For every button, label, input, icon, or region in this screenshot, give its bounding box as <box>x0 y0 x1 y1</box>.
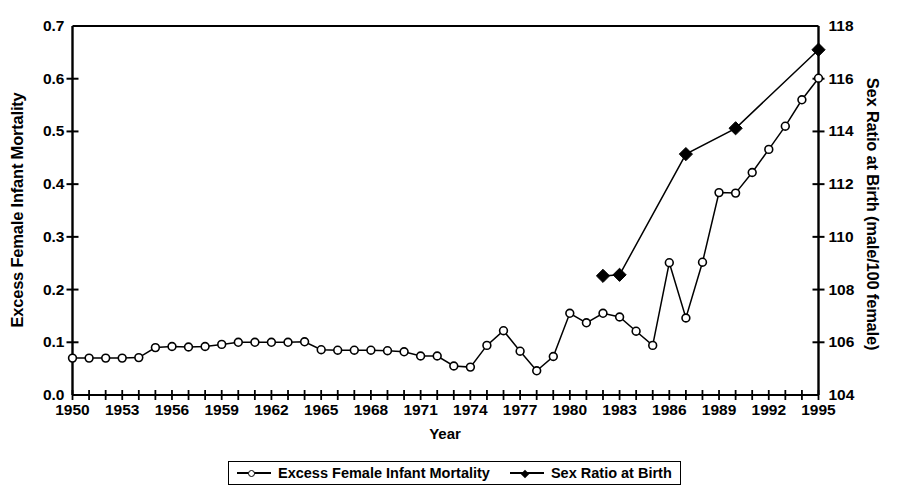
data-point-excess-female-infant-mortality <box>350 346 358 354</box>
data-point-excess-female-infant-mortality <box>334 346 342 354</box>
data-point-sex-ratio-at-birth <box>679 147 692 160</box>
data-point-excess-female-infant-mortality <box>218 341 226 349</box>
data-point-sex-ratio-at-birth <box>596 269 609 282</box>
data-point-excess-female-infant-mortality <box>765 146 773 154</box>
data-point-excess-female-infant-mortality <box>317 346 325 354</box>
data-point-excess-female-infant-mortality <box>467 363 475 371</box>
data-point-excess-female-infant-mortality <box>251 338 259 346</box>
data-point-excess-female-infant-mortality <box>168 343 176 351</box>
data-point-excess-female-infant-mortality <box>483 342 491 350</box>
data-point-excess-female-infant-mortality <box>400 348 408 356</box>
legend-item-sex-ratio-at-birth[interactable]: Sex Ratio at Birth <box>510 465 672 481</box>
data-point-excess-female-infant-mortality <box>798 96 806 104</box>
legend-item-excess-female-infant-mortality[interactable]: Excess Female Infant Mortality <box>237 465 490 481</box>
data-point-excess-female-infant-mortality <box>781 122 789 130</box>
data-point-excess-female-infant-mortality <box>682 314 690 322</box>
plot-area <box>0 0 912 498</box>
data-point-excess-female-infant-mortality <box>152 344 160 352</box>
data-point-excess-female-infant-mortality <box>69 354 77 362</box>
data-point-excess-female-infant-mortality <box>118 354 126 362</box>
data-point-excess-female-infant-mortality <box>268 338 276 346</box>
legend-label: Excess Female Infant Mortality <box>278 465 490 481</box>
data-point-excess-female-infant-mortality <box>815 74 823 82</box>
data-point-sex-ratio-at-birth <box>613 268 626 281</box>
data-point-excess-female-infant-mortality <box>85 354 93 362</box>
chart-figure: Excess Female Infant Mortality Sex Ratio… <box>0 0 912 498</box>
data-point-excess-female-infant-mortality <box>384 347 392 355</box>
data-point-excess-female-infant-mortality <box>715 189 723 197</box>
data-point-excess-female-infant-mortality <box>433 352 441 360</box>
data-point-excess-female-infant-mortality <box>732 189 740 197</box>
data-point-excess-female-infant-mortality <box>234 338 242 346</box>
series-line-sex-ratio-at-birth <box>603 50 819 276</box>
data-point-excess-female-infant-mortality <box>135 354 143 362</box>
series-line-excess-female-infant-mortality <box>73 78 819 371</box>
data-point-excess-female-infant-mortality <box>583 319 591 327</box>
data-point-excess-female-infant-mortality <box>284 338 292 346</box>
data-point-excess-female-infant-mortality <box>367 346 375 354</box>
data-point-excess-female-infant-mortality <box>516 347 524 355</box>
data-point-excess-female-infant-mortality <box>699 258 707 266</box>
legend-label: Sex Ratio at Birth <box>551 465 672 481</box>
data-point-excess-female-infant-mortality <box>616 313 624 321</box>
data-point-excess-female-infant-mortality <box>301 338 309 346</box>
data-point-excess-female-infant-mortality <box>549 353 557 361</box>
data-point-excess-female-infant-mortality <box>102 354 110 362</box>
data-point-excess-female-infant-mortality <box>649 342 657 350</box>
data-point-excess-female-infant-mortality <box>185 343 193 351</box>
data-point-excess-female-infant-mortality <box>632 327 640 335</box>
data-point-excess-female-infant-mortality <box>665 259 673 267</box>
data-point-excess-female-infant-mortality <box>533 367 541 375</box>
data-point-excess-female-infant-mortality <box>500 327 508 335</box>
chart-legend: Excess Female Infant Mortality Sex Ratio… <box>228 461 681 485</box>
open-circle-icon <box>237 467 271 479</box>
data-point-excess-female-infant-mortality <box>566 309 574 317</box>
data-point-excess-female-infant-mortality <box>417 352 425 360</box>
data-point-excess-female-infant-mortality <box>450 362 458 370</box>
data-point-excess-female-infant-mortality <box>748 169 756 177</box>
filled-diamond-icon <box>510 467 544 479</box>
data-point-excess-female-infant-mortality <box>599 309 607 317</box>
data-point-excess-female-infant-mortality <box>201 343 209 351</box>
